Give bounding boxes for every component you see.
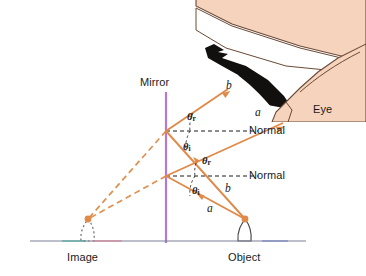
incident-ray-lower-a bbox=[166, 176, 245, 219]
ray-label-a-lower: a bbox=[207, 203, 213, 215]
angle-subscript: i bbox=[198, 188, 200, 197]
angle-subscript: r bbox=[208, 158, 211, 167]
image-label: Image bbox=[67, 252, 98, 263]
angle-label-lower-reflected: θr bbox=[202, 156, 211, 167]
object-tip-point bbox=[242, 216, 249, 223]
figure-canvas: Mirror Eye Normal Normal Image Object b … bbox=[0, 0, 366, 276]
mirror-label: Mirror bbox=[140, 77, 169, 88]
angle-label-upper-incident: θi bbox=[183, 142, 191, 153]
virtual-ray-upper bbox=[88, 131, 166, 219]
ray-label-b-lower: b bbox=[225, 183, 231, 195]
object-label: Object bbox=[228, 252, 260, 263]
ray-label-b-upper: b bbox=[226, 80, 232, 92]
incident-ray-upper-a bbox=[166, 131, 245, 219]
angle-arc-lower-reflected bbox=[195, 163, 196, 176]
reflected-ray-upper-b bbox=[166, 89, 228, 131]
image-tip-point bbox=[85, 216, 92, 223]
angle-label-upper-reflected: θr bbox=[187, 112, 196, 123]
eye-label: Eye bbox=[313, 104, 332, 115]
angle-subscript: i bbox=[189, 144, 191, 153]
normal-label-lower: Normal bbox=[249, 170, 285, 181]
eye-illustration bbox=[196, 0, 366, 122]
angle-label-lower-incident: θi bbox=[192, 186, 200, 197]
virtual-ray-lower bbox=[88, 176, 166, 219]
ray-label-a-upper: a bbox=[255, 107, 261, 119]
normal-label-upper: Normal bbox=[249, 125, 285, 136]
ray-diagram-svg bbox=[0, 0, 366, 276]
angle-subscript: r bbox=[193, 114, 196, 123]
